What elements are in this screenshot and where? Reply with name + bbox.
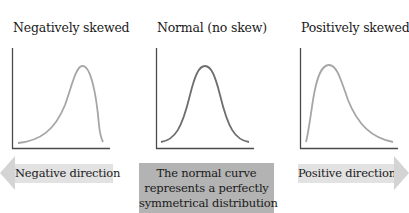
- note-line-1: The normal curve: [139, 166, 274, 181]
- positively-skewed-curve: [306, 65, 393, 142]
- note-line-3: symmetrical distribution: [139, 196, 274, 211]
- negatively-skewed-chart: [12, 48, 110, 149]
- normal-curve: [161, 66, 249, 142]
- normal-chart: [156, 48, 254, 149]
- arrow-left-icon: [0, 156, 15, 190]
- positive-direction-label: Positive direction: [298, 164, 394, 183]
- negative-direction-label: Negative direction: [15, 164, 113, 183]
- positively-skewed-chart: [300, 48, 398, 149]
- arrow-right-icon: [394, 156, 409, 190]
- note-line-2: represents a perfectly: [139, 181, 274, 196]
- normal-curve-note: The normal curve represents a perfectly …: [139, 163, 274, 213]
- negatively-skewed-curve: [18, 66, 103, 143]
